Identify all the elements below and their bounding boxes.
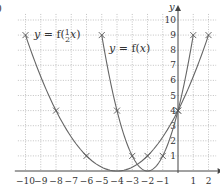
x-tick-label: −7 xyxy=(65,176,79,186)
x-tick-label: −6 xyxy=(80,176,94,186)
curve-f-half-x xyxy=(26,35,209,171)
cross-marker-icon xyxy=(129,153,135,159)
y-tick-label: 4 xyxy=(170,106,176,116)
x-tick-label: −10 xyxy=(16,176,35,186)
x-tick-label: −3 xyxy=(126,176,140,186)
x-tick-label: −5 xyxy=(95,176,109,186)
x-tick-label: −4 xyxy=(110,176,124,186)
y-tick-label: 5 xyxy=(170,91,176,101)
curve-f-x xyxy=(102,35,194,171)
label-f-half-x: y = f(12x) xyxy=(33,28,81,44)
x-tick-label: 2 xyxy=(206,176,212,186)
x-tick-label: 1 xyxy=(190,176,196,186)
label-f-x: y = f(x) xyxy=(108,42,150,55)
x-tick-label: −9 xyxy=(34,176,48,186)
x-tick-label: −8 xyxy=(49,176,63,186)
x-tick-label: −1 xyxy=(156,176,169,186)
y-tick-label: 8 xyxy=(170,45,176,55)
y-tick-label: 6 xyxy=(170,75,176,85)
y-tick-label: 2 xyxy=(170,136,176,146)
y-tick-label: 7 xyxy=(170,60,176,70)
y-tick-label: 9 xyxy=(170,30,176,40)
y-tick-label: 10 xyxy=(165,15,177,25)
x-tick-label: −2 xyxy=(141,176,154,186)
graph: yx −10−9−8−7−6−5−4−3−2−11212345678910 y … xyxy=(0,0,220,188)
curve-labels: y = f(12x)y = f(x) xyxy=(33,28,150,55)
x-axis-arrow-icon xyxy=(218,168,220,174)
y-axis-label: y xyxy=(168,1,175,12)
curves xyxy=(26,35,209,171)
y-axis-arrow-icon xyxy=(175,5,181,11)
y-tick-label: 1 xyxy=(170,151,176,161)
